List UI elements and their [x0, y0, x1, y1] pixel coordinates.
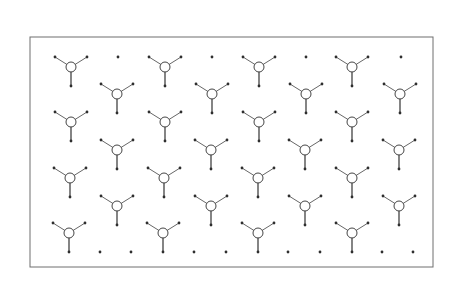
lattice-dot — [193, 251, 196, 254]
trigonal-unit — [335, 167, 370, 199]
terminal-atom-dot — [100, 83, 103, 86]
terminal-atom-dot — [84, 222, 87, 225]
trigonal-unit — [194, 139, 229, 171]
terminal-atom-dot — [321, 83, 324, 86]
terminal-atom-dot — [274, 111, 277, 114]
trigonal-unit — [146, 222, 181, 254]
terminal-atom-dot — [163, 196, 166, 199]
center-atom-circle — [347, 173, 357, 183]
terminal-atom-dot — [367, 167, 370, 170]
center-atom-circle — [394, 145, 404, 155]
terminal-atom-dot — [164, 140, 167, 143]
terminal-atom-dot — [179, 167, 182, 170]
trigonal-unit — [148, 111, 183, 143]
terminal-atom-dot — [162, 251, 165, 254]
terminal-atom-dot — [305, 112, 308, 115]
terminal-atom-dot — [53, 167, 56, 170]
center-atom-circle — [254, 117, 264, 127]
terminal-atom-dot — [383, 83, 386, 86]
trigonal-unit — [382, 139, 417, 171]
terminal-atom-dot — [398, 168, 401, 171]
terminal-atom-dot — [351, 85, 354, 88]
trigonal-unit — [100, 195, 135, 227]
terminal-atom-dot — [85, 167, 88, 170]
lattice-diagram — [0, 0, 457, 297]
center-atom-circle — [112, 145, 122, 155]
lattice-dot — [130, 251, 133, 254]
terminal-atom-dot — [70, 85, 73, 88]
trigonal-unit — [100, 139, 135, 171]
terminal-atom-dot — [116, 224, 119, 227]
terminal-atom-dot — [69, 196, 72, 199]
trigonal-unit — [335, 56, 370, 88]
terminal-atom-dot — [116, 168, 119, 171]
terminal-atom-dot — [367, 56, 370, 59]
terminal-atom-dot — [288, 139, 291, 142]
lattice-dot — [225, 251, 228, 254]
lattice-dot — [400, 56, 403, 59]
terminal-atom-dot — [414, 195, 417, 198]
center-atom-circle — [300, 201, 310, 211]
terminal-atom-dot — [164, 85, 167, 88]
trigonal-unit — [147, 167, 182, 199]
lattice-dot — [211, 56, 214, 59]
terminal-atom-dot — [304, 168, 307, 171]
trigonal-unit — [335, 222, 370, 254]
terminal-atom-dot — [211, 112, 214, 115]
terminal-atom-dot — [116, 112, 119, 115]
terminal-atom-dot — [257, 196, 260, 199]
terminal-atom-dot — [320, 139, 323, 142]
terminal-atom-dot — [148, 111, 151, 114]
terminal-atom-dot — [382, 139, 385, 142]
terminal-atom-dot — [351, 251, 354, 254]
terminal-atom-dot — [335, 167, 338, 170]
trigonal-unit — [335, 111, 370, 143]
trigonal-unit — [195, 83, 230, 115]
terminal-atom-dot — [86, 56, 89, 59]
center-atom-circle — [395, 89, 405, 99]
center-atom-circle — [394, 201, 404, 211]
terminal-atom-dot — [398, 224, 401, 227]
terminal-atom-dot — [70, 140, 73, 143]
terminal-atom-dot — [210, 168, 213, 171]
terminal-atom-dot — [194, 195, 197, 198]
terminal-atom-dot — [367, 222, 370, 225]
terminal-atom-dot — [194, 139, 197, 142]
terminal-atom-dot — [274, 56, 277, 59]
trigonal-unit — [288, 195, 323, 227]
trigonal-unit — [242, 111, 277, 143]
center-atom-circle — [112, 201, 122, 211]
terminal-atom-dot — [351, 140, 354, 143]
terminal-atom-dot — [335, 56, 338, 59]
terminal-atom-dot — [288, 195, 291, 198]
terminal-atom-dot — [415, 83, 418, 86]
trigonal-unit — [382, 195, 417, 227]
terminal-atom-dot — [382, 195, 385, 198]
terminal-atom-dot — [335, 111, 338, 114]
terminal-atom-dot — [54, 56, 57, 59]
terminal-atom-dot — [226, 139, 229, 142]
trigonal-unit — [241, 222, 276, 254]
terminal-atom-dot — [178, 222, 181, 225]
terminal-atom-dot — [273, 167, 276, 170]
center-atom-circle — [254, 62, 264, 72]
terminal-atom-dot — [52, 222, 55, 225]
terminal-atom-dot — [304, 224, 307, 227]
terminal-atom-dot — [210, 224, 213, 227]
terminal-atom-dot — [367, 111, 370, 114]
center-atom-circle — [160, 117, 170, 127]
terminal-atom-dot — [100, 195, 103, 198]
terminal-atom-dot — [86, 111, 89, 114]
center-atom-circle — [347, 228, 357, 238]
terminal-atom-dot — [414, 139, 417, 142]
terminal-atom-dot — [148, 56, 151, 59]
center-atom-circle — [207, 89, 217, 99]
terminal-atom-dot — [241, 222, 244, 225]
trigonal-unit — [148, 56, 183, 88]
center-atom-circle — [65, 173, 75, 183]
trigonal-unit — [54, 111, 89, 143]
center-atom-circle — [206, 201, 216, 211]
terminal-atom-dot — [273, 222, 276, 225]
trigonal-unit — [289, 83, 324, 115]
trigonal-unit — [288, 139, 323, 171]
